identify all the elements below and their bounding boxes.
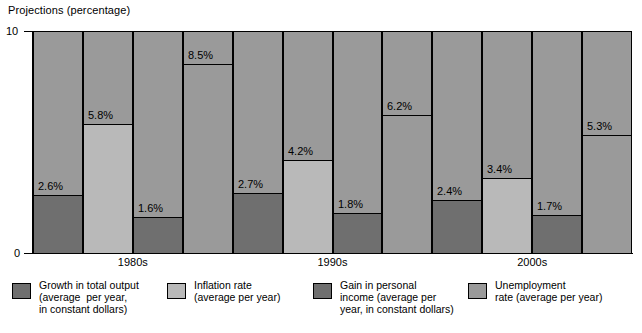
bar-column[interactable]: [33, 31, 83, 253]
bar-value-label: 2.6%: [38, 181, 63, 192]
bar-fill[interactable]: [234, 193, 282, 253]
chart-axis-title: Projections (percentage): [8, 4, 130, 16]
bar-fill[interactable]: [483, 178, 531, 253]
bar-column[interactable]: [283, 31, 333, 253]
bar-column[interactable]: [582, 31, 632, 253]
legend-swatch: [313, 283, 332, 299]
bar-value-label: 6.2%: [387, 101, 412, 112]
legend-swatch: [167, 283, 186, 299]
y-tick-10: [24, 31, 32, 32]
legend-label: Growth in total output (average per year…: [39, 279, 139, 316]
bar-column[interactable]: [382, 31, 432, 253]
bar-value-label: 1.8%: [338, 199, 363, 210]
bar-column[interactable]: [233, 31, 283, 253]
bar-column[interactable]: [532, 31, 582, 253]
bar-value-label: 2.4%: [437, 186, 462, 197]
bar-fill[interactable]: [334, 213, 381, 253]
bar-column[interactable]: [333, 31, 382, 253]
x-axis-line: [24, 253, 633, 254]
bar-fill[interactable]: [583, 135, 631, 253]
bar-column[interactable]: [482, 31, 532, 253]
bar-value-label: 4.2%: [288, 146, 313, 157]
plot-area: 2.6%5.8%1.6%8.5%2.7%4.2%1.8%6.2%2.4%3.4%…: [33, 31, 632, 253]
bar-column[interactable]: [83, 31, 133, 253]
bar-fill[interactable]: [134, 217, 182, 253]
bar-value-label: 2.7%: [238, 179, 263, 190]
y-tick-0: [24, 253, 32, 254]
bar-value-label: 5.3%: [587, 121, 612, 132]
legend-swatch: [468, 283, 487, 299]
legend-label: Gain in personal income (average per yea…: [340, 279, 454, 316]
legend-label: Inflation rate (average per year): [194, 279, 280, 303]
projections-bar-chart: Projections (percentage) 10 0 2.6%5.8%1.…: [0, 0, 642, 333]
bar-value-label: 1.7%: [537, 201, 562, 212]
x-axis-label-1990s: 1990s: [293, 256, 373, 268]
chart-legend: Growth in total output (average per year…: [0, 279, 642, 333]
bar-fill[interactable]: [34, 195, 82, 253]
bar-column[interactable]: [432, 31, 482, 253]
y-axis-label-0: 0: [14, 247, 20, 259]
bar-fill[interactable]: [533, 215, 581, 253]
bar-value-label: 1.6%: [138, 203, 163, 214]
bar-value-label: 3.4%: [487, 164, 512, 175]
bar-value-label: 8.5%: [188, 50, 213, 61]
x-axis-label-2000s: 2000s: [492, 256, 572, 268]
bar-fill[interactable]: [433, 200, 481, 253]
bar-value-label: 5.8%: [88, 110, 113, 121]
bar-fill[interactable]: [84, 124, 132, 253]
bar-column[interactable]: [133, 31, 183, 253]
x-axis-label-1980s: 1980s: [93, 256, 173, 268]
y-axis-label-10: 10: [6, 25, 18, 37]
bar-column[interactable]: [183, 31, 233, 253]
bar-fill[interactable]: [383, 115, 431, 253]
legend-swatch: [12, 283, 31, 299]
bar-fill[interactable]: [284, 160, 332, 253]
bar-fill[interactable]: [184, 64, 232, 253]
legend-label: Unemployment rate (average per year): [495, 279, 602, 303]
